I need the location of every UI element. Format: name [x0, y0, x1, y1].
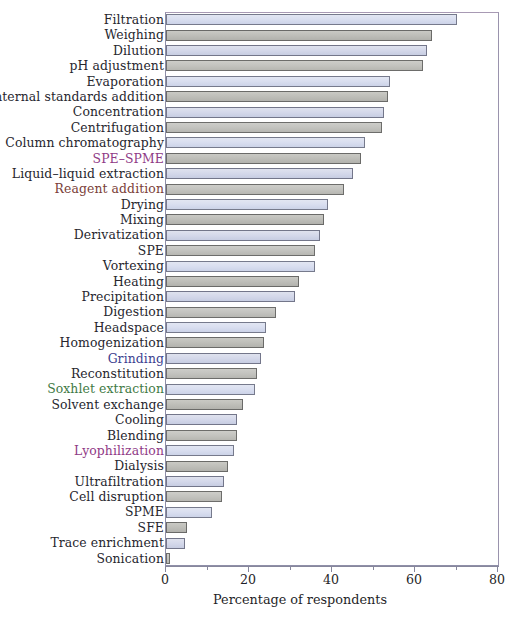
bar [166, 45, 427, 56]
bar-row: Sonication [0, 551, 516, 567]
bar-row: Digestion [0, 304, 516, 320]
bar-row: Precipitation [0, 289, 516, 305]
bar-category-label: Concentration [73, 104, 164, 120]
bar-row: Trace enrichment [0, 535, 516, 551]
x-tick-label: 20 [240, 572, 256, 587]
bar [166, 261, 315, 272]
bar-category-label: Blending [107, 428, 164, 444]
x-axis-title: Percentage of respondents [0, 592, 516, 607]
bar-row: Grinding [0, 351, 516, 367]
bar [166, 445, 234, 456]
bar-category-label: Reagent addition [55, 181, 164, 197]
bar [166, 353, 261, 364]
bar-row: SPME [0, 504, 516, 520]
bar-category-label: Filtration [104, 12, 164, 28]
bar [166, 184, 344, 195]
bar-row: Reconstitution [0, 366, 516, 382]
bar-row: SFE [0, 520, 516, 536]
bar-category-label: Reconstitution [71, 366, 164, 382]
bar [166, 476, 224, 487]
x-tick-label: 80 [489, 572, 505, 587]
x-tick-minor [290, 566, 291, 570]
bar [166, 291, 295, 302]
bar-row: Solvent exchange [0, 397, 516, 413]
bar-row: Liquid–liquid extraction [0, 166, 516, 182]
bar-category-label: Mixing [120, 212, 164, 228]
bar-category-label: Digestion [103, 304, 164, 320]
bar-category-label: Solvent exchange [51, 397, 164, 413]
bar-row: Mixing [0, 212, 516, 228]
bar-category-label: Cell disruption [69, 489, 164, 505]
bar-rows-container: FiltrationWeighingDilutionpH adjustmentE… [0, 12, 516, 566]
bar-category-label: Vortexing [103, 258, 164, 274]
bar-row: Vortexing [0, 258, 516, 274]
bar-row: Derivatization [0, 227, 516, 243]
bar-category-label: Sonication [96, 551, 164, 567]
bar-row: Weighing [0, 27, 516, 43]
x-tick-minor [207, 566, 208, 570]
bar-row: Ultrafiltration [0, 474, 516, 490]
bar [166, 107, 384, 118]
bar-category-label: SFE [138, 520, 164, 536]
bar-row: Column chromatography [0, 135, 516, 151]
bar [166, 153, 361, 164]
bar [166, 538, 185, 549]
bar [166, 137, 365, 148]
bar-row: Cell disruption [0, 489, 516, 505]
bar-row: Evaporation [0, 74, 516, 90]
bar-category-label: Liquid–liquid extraction [12, 166, 164, 182]
bar-category-label: Trace enrichment [50, 535, 164, 551]
bar [166, 60, 423, 71]
bar [166, 199, 328, 210]
bar-category-label: Dilution [113, 43, 164, 59]
bar-row: Reagent addition [0, 181, 516, 197]
bar [166, 322, 266, 333]
bar-category-label: Drying [121, 197, 164, 213]
bar-category-label: Centrifugation [71, 120, 164, 136]
x-tick-minor [456, 566, 457, 570]
x-axis-title-text: Percentage of respondents [213, 592, 387, 607]
bar [166, 307, 276, 318]
bar [166, 245, 315, 256]
bar-row: Cooling [0, 412, 516, 428]
bar-row: Filtration [0, 12, 516, 28]
bar-row: Dilution [0, 43, 516, 59]
bar [166, 276, 299, 287]
bar-row: Headspace [0, 320, 516, 336]
bar [166, 30, 432, 41]
bar-category-label: Heating [113, 274, 164, 290]
bar [166, 553, 170, 564]
bar [166, 91, 388, 102]
bar [166, 230, 320, 241]
x-tick-label: 0 [161, 572, 169, 587]
x-tick-label: 40 [323, 572, 339, 587]
bar-category-label: Ultrafiltration [75, 474, 164, 490]
bar-category-label: Homogenization [60, 335, 164, 351]
bar [166, 399, 243, 410]
bar [166, 214, 324, 225]
bar-row: Drying [0, 197, 516, 213]
bar-row: Internal standards addition [0, 89, 516, 105]
bar-category-label: Headspace [94, 320, 164, 336]
bar-row: Heating [0, 274, 516, 290]
bar-category-label: pH adjustment [70, 58, 165, 74]
bar-row: Homogenization [0, 335, 516, 351]
bar [166, 522, 187, 533]
bar [166, 122, 382, 133]
bar-category-label: Cooling [115, 412, 164, 428]
bar-category-label: SPME [125, 504, 164, 520]
bar [166, 384, 255, 395]
bar [166, 168, 353, 179]
bar-row: Concentration [0, 104, 516, 120]
bar-row: SPE–SPME [0, 151, 516, 167]
bar [166, 507, 212, 518]
bar-category-label: Dialysis [114, 458, 164, 474]
bar-category-label: Lyophilization [74, 443, 164, 459]
bar-category-label: Weighing [104, 27, 164, 43]
bar-category-label: Precipitation [82, 289, 164, 305]
bar-category-label: Column chromatography [5, 135, 164, 151]
bar-category-label: Internal standards addition [0, 89, 164, 105]
bar-row: Lyophilization [0, 443, 516, 459]
bar-row: Dialysis [0, 458, 516, 474]
bar-category-label: SPE [138, 243, 164, 259]
